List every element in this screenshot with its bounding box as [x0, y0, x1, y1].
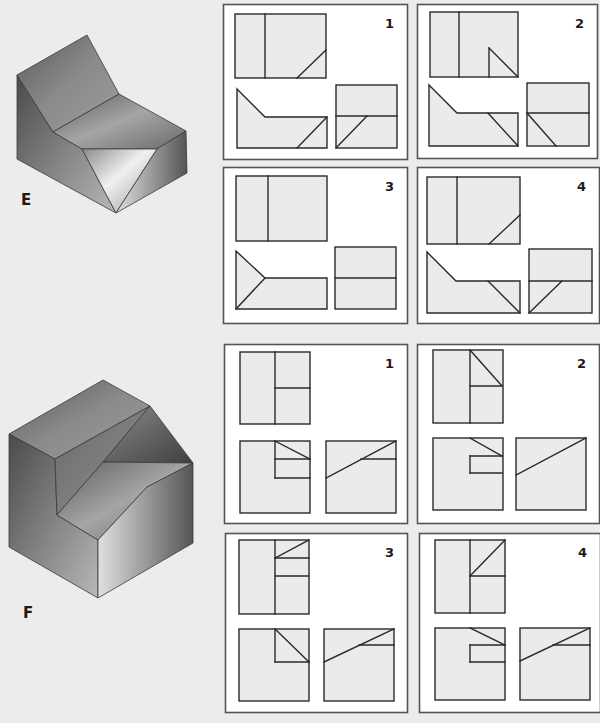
- orthographic-view: [516, 438, 586, 510]
- orthographic-view: [520, 628, 590, 700]
- isometric-solid-e: [17, 35, 187, 213]
- problem-label-e: E: [21, 193, 31, 208]
- orthographic-view: [427, 177, 520, 244]
- option-f-3[interactable]: [226, 534, 408, 713]
- orthographic-view: [235, 14, 326, 78]
- orthographic-view: [324, 629, 394, 701]
- option-number-f-2: 2: [577, 357, 586, 370]
- orthographic-view: [239, 540, 309, 614]
- option-boxes-layer: [224, 5, 600, 713]
- orthographic-view: [430, 12, 518, 77]
- option-e-2[interactable]: [418, 5, 598, 159]
- orthographic-view: [236, 176, 327, 241]
- option-number-f-3: 3: [385, 546, 394, 559]
- orthographic-view: [326, 441, 396, 513]
- solids-layer: [9, 35, 193, 598]
- orthographic-view: [433, 438, 503, 510]
- option-e-3[interactable]: [224, 168, 408, 324]
- option-number-e-4: 4: [577, 180, 586, 193]
- orthographic-view: [239, 629, 309, 701]
- option-number-f-1: 1: [385, 357, 394, 370]
- option-f-4[interactable]: [420, 534, 600, 713]
- option-e-4[interactable]: [418, 168, 600, 324]
- orthographic-view: [435, 628, 505, 700]
- option-number-f-4: 4: [578, 546, 587, 559]
- option-number-e-2: 2: [575, 17, 584, 30]
- isometric-solid-f: [9, 380, 193, 598]
- problem-label-f: F: [23, 606, 33, 621]
- option-e-1[interactable]: [224, 5, 408, 160]
- option-f-2[interactable]: [418, 345, 600, 524]
- option-f-1[interactable]: [225, 345, 408, 524]
- option-number-e-1: 1: [385, 17, 394, 30]
- option-number-e-3: 3: [385, 180, 394, 193]
- orthographic-view: [527, 83, 589, 146]
- diagram-canvas: [0, 0, 600, 723]
